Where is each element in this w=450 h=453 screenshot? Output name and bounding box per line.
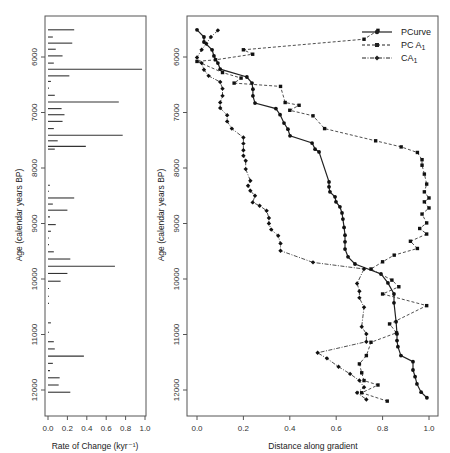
x-tick-label: 0.6 (101, 424, 113, 433)
y-tick-label: 9000 (30, 214, 39, 232)
left-y-axis-title: Age (calendar years BP) (14, 169, 24, 262)
data-point (297, 104, 300, 107)
data-point (343, 233, 347, 237)
data-point (202, 35, 206, 39)
data-point (195, 28, 199, 32)
x-tick-label: 0.6 (331, 424, 343, 433)
y-tick-label: 6000 (172, 48, 181, 66)
x-tick-label: 0.2 (62, 424, 74, 433)
data-point (283, 101, 286, 104)
data-point (241, 154, 245, 158)
data-point (360, 391, 363, 394)
data-point (210, 48, 214, 52)
data-point (425, 232, 428, 235)
data-point (251, 53, 254, 56)
data-point (246, 184, 250, 188)
right-y-axis: 6000700080009000100001100012000 (172, 48, 187, 402)
data-point (278, 248, 282, 252)
data-point (286, 127, 290, 131)
data-point (388, 322, 391, 325)
data-point (423, 172, 426, 175)
data-point (251, 87, 255, 91)
data-point (253, 194, 257, 198)
data-point (393, 253, 396, 256)
y-tick-label: 10000 (30, 267, 39, 290)
data-point (420, 164, 423, 167)
data-point (216, 61, 220, 65)
y-tick-label: 8000 (30, 159, 39, 177)
distance-along-gradient-panel: 6000700080009000100001100012000 0.00.20.… (156, 16, 438, 451)
x-tick-label: 0.0 (42, 424, 54, 433)
data-point (360, 371, 363, 374)
left-y-axis: 6000700080009000100001100012000 (30, 48, 45, 402)
data-point (248, 179, 252, 183)
data-point (376, 383, 379, 386)
data-point (416, 151, 419, 154)
data-point (241, 141, 245, 145)
y-tick-label: 11000 (172, 323, 181, 345)
data-point (365, 354, 368, 357)
data-point (338, 205, 342, 209)
data-point (427, 206, 430, 209)
y-tick-label: 7000 (172, 103, 181, 121)
data-point (386, 281, 390, 285)
data-point (392, 292, 396, 296)
data-point (420, 158, 423, 161)
x-tick-label: 1.0 (139, 424, 151, 433)
x-tick-label: 1.0 (423, 424, 435, 433)
data-point (313, 147, 317, 151)
x-tick-label: 0.8 (377, 424, 389, 433)
x-tick-label: 0.0 (191, 424, 203, 433)
data-point (425, 304, 428, 307)
data-point (214, 58, 217, 61)
data-point (369, 267, 372, 270)
right-y-axis-title: Age (calendar years BP) (156, 169, 166, 262)
square-marker-icon (375, 43, 379, 47)
data-point (395, 331, 398, 334)
data-point (381, 292, 384, 295)
data-point (341, 217, 345, 221)
legend-item-pcurve: PCurve (362, 27, 431, 37)
data-point (420, 212, 423, 215)
data-point (251, 94, 255, 98)
data-point (360, 325, 364, 329)
data-point (342, 225, 346, 229)
data-point (327, 185, 331, 189)
legend-label-pcurve: PCurve (401, 27, 431, 37)
data-point (288, 109, 291, 112)
data-point (245, 75, 249, 79)
diamond-marker-icon (375, 56, 380, 61)
data-point (220, 86, 224, 90)
data-point (323, 127, 326, 130)
data-point (357, 296, 361, 300)
left-x-axis: 0.00.20.40.60.81.0 (42, 416, 151, 433)
y-tick-label: 10000 (172, 267, 181, 290)
data-point (399, 354, 403, 358)
data-point (369, 341, 372, 344)
data-point (221, 71, 224, 74)
y-tick-label: 11000 (30, 323, 39, 345)
data-point (278, 241, 282, 245)
data-point (355, 281, 359, 285)
data-point (423, 190, 426, 193)
data-point (212, 54, 216, 58)
x-tick-label: 0.8 (120, 424, 132, 433)
data-point (425, 182, 428, 185)
data-point (218, 100, 222, 104)
series-pcurve (195, 28, 429, 400)
data-point (358, 362, 361, 365)
y-tick-label: 8000 (172, 159, 181, 177)
data-point (310, 141, 314, 145)
rate-of-change-bars (48, 30, 142, 392)
data-point (395, 339, 399, 343)
data-point (225, 119, 229, 123)
data-point (362, 38, 365, 41)
data-point (239, 76, 242, 79)
data-point (195, 60, 198, 63)
data-point (396, 345, 400, 349)
data-point (333, 195, 337, 199)
data-point (427, 196, 430, 199)
data-point (244, 167, 248, 171)
y-tick-label: 6000 (30, 48, 39, 66)
data-point (343, 240, 347, 244)
